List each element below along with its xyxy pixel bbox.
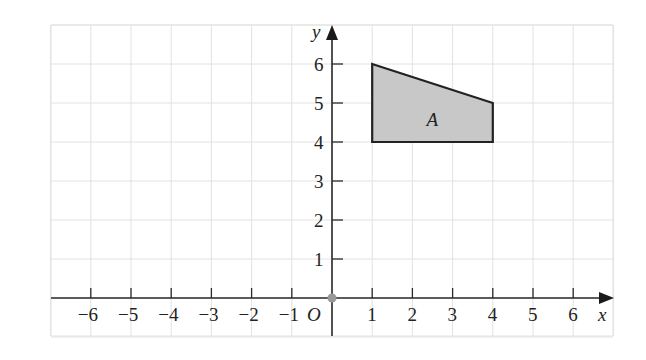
- x-tick-label: 6: [568, 304, 578, 325]
- x-tick-label: −1: [279, 304, 299, 325]
- y-axis-label: y: [310, 21, 321, 42]
- x-tick-label: 3: [448, 304, 458, 325]
- labels: x y O: [307, 21, 607, 325]
- x-tick-label: 1: [367, 304, 377, 325]
- x-tick-label: 4: [488, 304, 498, 325]
- y-tick-label: 4: [314, 132, 324, 153]
- ticks: −6−5−4−3−2−1123456123456: [78, 54, 578, 325]
- x-axis-arrow-icon: [599, 292, 614, 304]
- y-axis-arrow-icon: [326, 25, 338, 40]
- x-tick-label: −5: [118, 304, 138, 325]
- x-tick-label: 2: [407, 304, 417, 325]
- coordinate-grid-diagram: A −6−5−4−3−2−1123456123456 x y O: [0, 0, 646, 360]
- x-tick-label: −3: [198, 304, 218, 325]
- shapes-layer: A: [372, 64, 493, 142]
- shape-label-a: A: [424, 109, 438, 130]
- y-tick-label: 6: [314, 54, 324, 75]
- x-tick-label: −4: [158, 304, 179, 325]
- x-tick-label: 5: [528, 304, 538, 325]
- x-tick-label: −2: [239, 304, 259, 325]
- x-tick-label: −6: [78, 304, 98, 325]
- origin-label: O: [307, 304, 321, 325]
- y-tick-label: 2: [314, 210, 324, 231]
- origin-dot: [328, 294, 337, 303]
- x-axis-label: x: [597, 304, 607, 325]
- y-tick-label: 3: [314, 171, 324, 192]
- y-tick-label: 1: [314, 249, 324, 270]
- y-tick-label: 5: [314, 93, 324, 114]
